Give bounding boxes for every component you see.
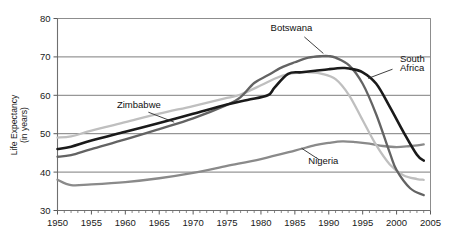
x-tick-label-1990: 1990	[318, 217, 339, 228]
plot-frame	[58, 19, 431, 211]
y-axis-title-line1: Life Expectancy	[9, 94, 19, 155]
series-line-south-africa	[58, 68, 424, 161]
series-label-zimbabwe-text: Zimbabwe	[117, 99, 161, 110]
series-label-zimbabwe: Zimbabwe	[117, 99, 161, 110]
series-label-botswana-text: Botswana	[271, 22, 313, 33]
x-axis-tick-labels: 1950195519601965197019751980198519901995…	[47, 217, 441, 228]
y-axis-title: Life Expectancy (in years)	[9, 94, 29, 155]
series-label-south-africa-line2: Africa	[400, 62, 425, 73]
chart-canvas: 304050607080 195019551960196519701975198…	[0, 0, 451, 245]
series-line-nigeria	[58, 141, 424, 185]
x-tick-label-1960: 1960	[115, 217, 136, 228]
x-tick-label-1955: 1955	[81, 217, 102, 228]
data-series-group	[58, 56, 424, 195]
y-tick-label-60: 60	[40, 90, 51, 101]
x-tick-label-2000: 2000	[386, 217, 407, 228]
y-axis-title-line2: (in years)	[19, 107, 29, 143]
series-label-south-africa: South Africa	[400, 53, 425, 72]
y-axis-tick-labels: 304050607080	[40, 13, 51, 216]
x-tick-label-1995: 1995	[352, 217, 373, 228]
series-label-nigeria: Nigeria	[308, 155, 339, 166]
x-tick-label-1985: 1985	[284, 217, 305, 228]
series-label-botswana: Botswana	[271, 22, 313, 33]
axis-ticks	[54, 19, 431, 215]
leader-line-south-africa	[368, 69, 392, 78]
life-expectancy-line-chart: 304050607080 195019551960196519701975198…	[0, 0, 451, 245]
x-tick-label-1965: 1965	[149, 217, 170, 228]
series-label-nigeria-text: Nigeria	[308, 155, 339, 166]
y-tick-label-40: 40	[40, 167, 51, 178]
y-tick-label-30: 30	[40, 205, 51, 216]
x-tick-label-1980: 1980	[250, 217, 271, 228]
x-tick-label-2005: 2005	[420, 217, 441, 228]
x-tick-label-1975: 1975	[216, 217, 237, 228]
leader-line-botswana	[304, 37, 323, 54]
x-tick-label-1950: 1950	[47, 217, 68, 228]
y-tick-label-70: 70	[40, 51, 51, 62]
y-tick-label-80: 80	[40, 13, 51, 24]
y-tick-label-50: 50	[40, 128, 51, 139]
x-tick-label-1970: 1970	[183, 217, 204, 228]
